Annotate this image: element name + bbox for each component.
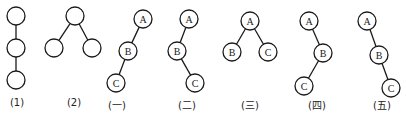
tree-node-label: C <box>388 83 395 94</box>
figure-caption-4: (二) <box>178 97 196 112</box>
tree-edge <box>181 59 190 75</box>
tree-figure-5: ABC <box>223 12 277 61</box>
tree-figure-2 <box>45 7 101 57</box>
tree-node-label: C <box>301 81 308 92</box>
tree-node-label: B <box>125 46 132 57</box>
tree-node <box>83 39 101 57</box>
tree-edge <box>132 27 139 43</box>
tree-edge <box>382 63 388 79</box>
tree-node-label: B <box>376 50 383 61</box>
tree-figure-4: ABC <box>168 10 204 92</box>
tree-edge <box>370 29 376 46</box>
tree-edge <box>255 29 264 44</box>
tree-node-label: A <box>363 16 371 27</box>
tree-edge <box>308 61 318 78</box>
tree-figure-6: ABC <box>295 12 332 95</box>
tree-node <box>66 7 84 25</box>
tree-edge <box>59 24 70 41</box>
figure-caption-6: (四) <box>308 97 326 112</box>
figure-caption-7: (五) <box>373 97 391 112</box>
tree-node-label: B <box>229 47 236 58</box>
tree-edge <box>180 27 186 42</box>
figure-caption-3: (一) <box>108 97 126 112</box>
figure-caption-2: (2) <box>67 97 81 108</box>
tree-node-label: C <box>192 78 199 89</box>
tree-node <box>45 39 63 57</box>
tree-node-label: C <box>113 78 120 89</box>
figure-caption-1: (1) <box>10 97 24 108</box>
tree-node-label: A <box>139 14 147 25</box>
tree-node-label: A <box>185 14 193 25</box>
tree-figure-3: ABC <box>107 10 152 92</box>
tree-edge <box>119 59 125 74</box>
figure-caption-5: (三) <box>241 97 259 112</box>
tree-node-label: A <box>305 16 313 27</box>
tree-edge <box>79 24 88 40</box>
tree-edge <box>313 29 320 45</box>
tree-node-label: C <box>265 47 272 58</box>
tree-node-label: A <box>246 16 254 27</box>
tree-edge <box>237 29 246 44</box>
tree-node <box>7 71 25 89</box>
binary-tree-shapes-diagram: ABCABCABCABCABC <box>0 0 406 117</box>
tree-node-label: B <box>320 48 327 59</box>
tree-node-label: B <box>174 46 181 57</box>
tree-figure-1 <box>7 7 25 89</box>
tree-node <box>7 39 25 57</box>
tree-node <box>7 7 25 25</box>
tree-figure-7: ABC <box>358 12 400 97</box>
